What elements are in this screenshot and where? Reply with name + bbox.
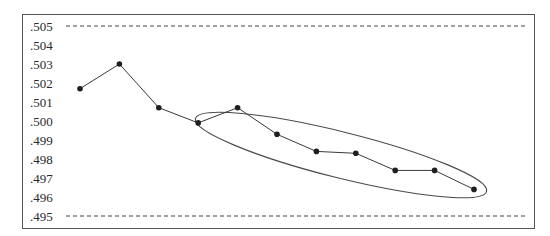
y-tick-label: .498	[30, 152, 53, 167]
y-tick-label: .504	[30, 38, 53, 53]
y-tick-label: .502	[30, 76, 53, 91]
data-point	[471, 187, 477, 193]
data-point	[274, 132, 280, 138]
y-tick-label: .500	[30, 114, 53, 129]
data-line	[80, 64, 474, 189]
data-point	[235, 105, 241, 111]
data-points	[77, 61, 477, 192]
data-point	[353, 151, 359, 157]
trend-highlight-ellipse	[190, 96, 492, 213]
y-tick-label: .505	[30, 19, 53, 34]
data-point	[156, 105, 162, 111]
data-point	[314, 149, 320, 155]
y-tick-label: .496	[30, 190, 53, 205]
data-point	[117, 61, 123, 67]
data-point	[432, 168, 438, 174]
data-point	[195, 120, 201, 126]
y-tick-label: .497	[30, 171, 53, 186]
y-tick-label: .501	[30, 95, 53, 110]
control-chart: .505.504.503.502.501.500.499.498.497.496…	[0, 0, 550, 236]
y-tick-label: .495	[30, 209, 53, 224]
data-point	[392, 168, 398, 174]
y-tick-label: .503	[30, 57, 53, 72]
chart-frame	[23, 15, 535, 229]
y-tick-label: .499	[30, 133, 53, 148]
y-axis-tick-labels: .505.504.503.502.501.500.499.498.497.496…	[30, 19, 53, 224]
data-point	[77, 86, 83, 92]
